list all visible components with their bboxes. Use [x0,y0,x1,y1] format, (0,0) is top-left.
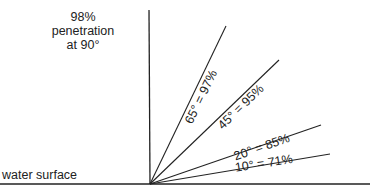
title-line-1: 98% [38,10,128,24]
title-line-3: at 90° [38,38,128,52]
ray-90 [149,10,150,184]
vertical-penetration-label: 98% penetration at 90° [38,10,128,52]
title-line-2: penetration [38,24,128,38]
water-surface-label: water surface [2,168,77,182]
